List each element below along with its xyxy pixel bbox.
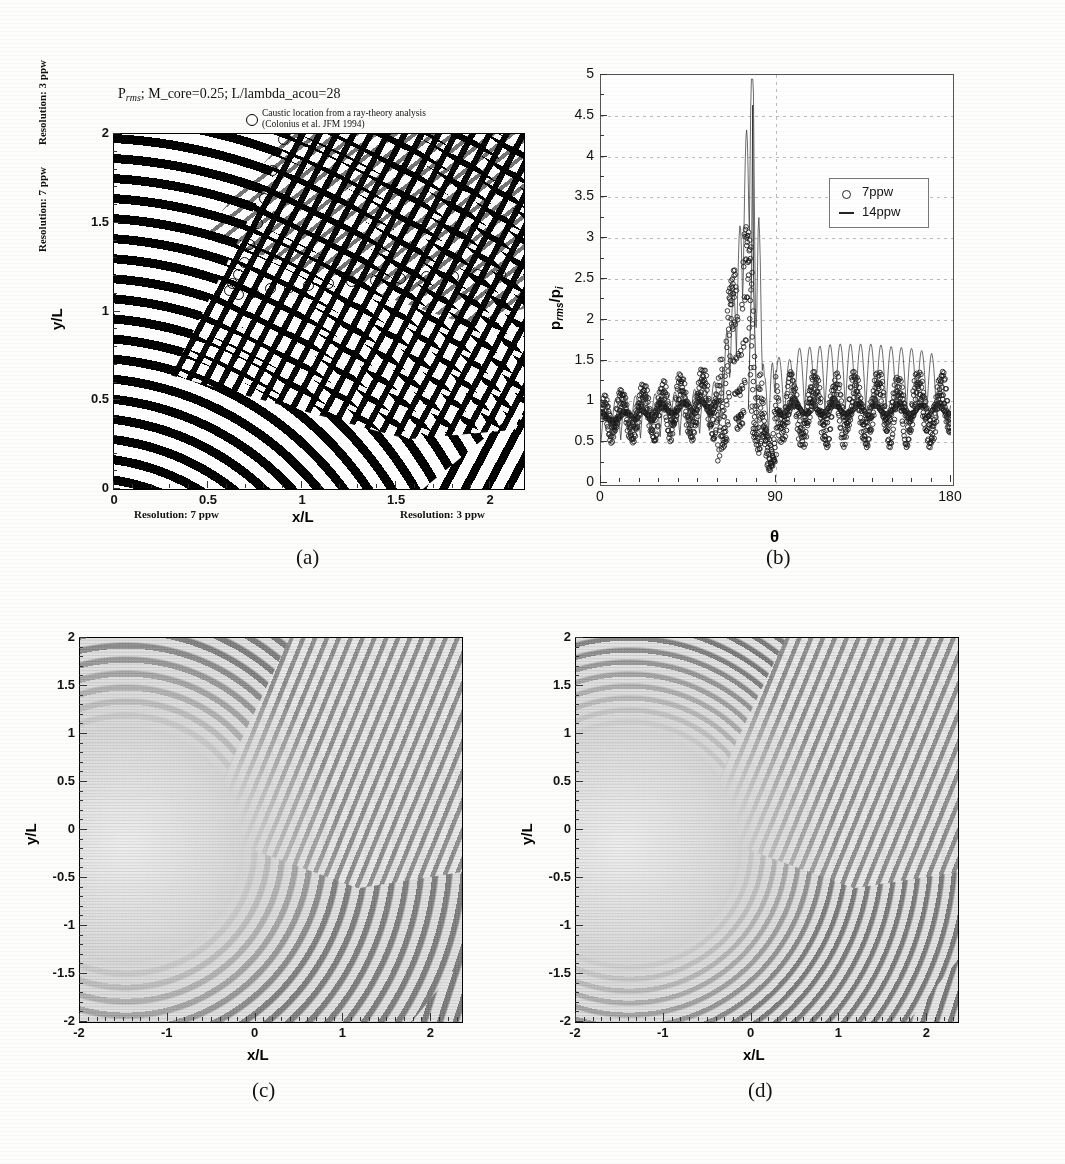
panel-a-x-minor-tick	[282, 484, 283, 488]
panel-d-y-minor-tick	[575, 983, 579, 984]
panel-a-note-left-bottom: Resolution: 7 ppw	[36, 167, 48, 252]
panel-d-y-minor-tick	[575, 637, 579, 638]
panel-d-x-minor-tick	[891, 1017, 892, 1021]
panel-b-y-minor-tick	[600, 380, 604, 381]
panel-a-x-minor-tick	[132, 484, 133, 488]
panel-a-field-image	[114, 134, 524, 489]
panel-c-x-minor-tick	[299, 1017, 300, 1021]
panel-b-x-tick-label: 0	[582, 488, 618, 504]
panel-d-y-minor-tick	[575, 867, 579, 868]
panel-b-y-tick-label: 0	[560, 473, 594, 489]
panel-c-y-minor-tick	[79, 714, 83, 715]
panel-d-y-minor-tick	[575, 887, 579, 888]
panel-b-x-minor-tick	[853, 478, 854, 482]
panel-d-x-minor-tick	[900, 1017, 901, 1021]
panel-b-x-minor-tick	[911, 478, 912, 482]
panel-a-y-axis-title: y/L	[48, 308, 65, 330]
panel-b-y-minor-tick	[600, 360, 604, 361]
panel-d-x-minor-tick	[812, 1017, 813, 1021]
panel-c-y-minor-tick	[79, 925, 83, 926]
panel-d-x-minor-tick	[856, 1017, 857, 1021]
panel-c-y-minor-tick	[79, 752, 83, 753]
panel-a-y-minor-tick	[113, 293, 117, 294]
panel-b-y-minor-tick	[600, 74, 604, 75]
panel-a-x-minor-tick	[301, 484, 302, 488]
panel-d-x-minor-tick	[847, 1017, 848, 1021]
panel-c-x-minor-tick	[395, 1017, 396, 1021]
panel-c-y-minor-tick	[79, 848, 83, 849]
panel-c-x-tick-label: 1	[328, 1025, 356, 1040]
panel-a-x-minor-tick	[452, 484, 453, 488]
panel-d-x-minor-tick	[838, 1017, 839, 1021]
panel-c-y-tick-label: -0.5	[45, 869, 75, 884]
panel-b-x-minor-tick	[639, 478, 640, 482]
panel-a-title-main: P	[118, 86, 126, 101]
panel-a-y-tick-label: 2	[83, 125, 109, 140]
panel-b-x-minor-tick	[717, 478, 718, 482]
panel-b-x-tick-label: 90	[757, 488, 793, 504]
panel-a-y-minor-tick	[113, 417, 117, 418]
panel-b-x-tick-label: 180	[932, 488, 968, 504]
panel-a-y-minor-tick	[113, 169, 117, 170]
panel-c-y-minor-tick	[79, 675, 83, 676]
panel-b-x-minor-tick	[931, 478, 932, 482]
panel-b-data-canvas	[601, 75, 951, 483]
panel-d-x-tick-label: -1	[649, 1025, 677, 1040]
panel-c-y-minor-tick	[79, 800, 83, 801]
panel-c-y-minor-tick	[79, 935, 83, 936]
panel-d-x-minor-tick	[830, 1017, 831, 1021]
panel-d-x-minor-tick	[935, 1017, 936, 1021]
panel-a-x-minor-tick	[263, 484, 264, 488]
panel-c-y-minor-tick	[79, 762, 83, 763]
panel-a-x-minor-tick	[414, 484, 415, 488]
panel-c-y-minor-tick	[79, 656, 83, 657]
panel-b-x-minor-tick	[600, 478, 601, 482]
panel-d-y-minor-tick	[575, 733, 579, 734]
panel-d-x-minor-tick	[751, 1017, 752, 1021]
panel-c-y-minor-tick	[79, 781, 83, 782]
panel-b-y-minor-tick	[600, 94, 604, 95]
panel-c-y-minor-tick	[79, 1021, 83, 1022]
panel-a-x-minor-tick	[470, 484, 471, 488]
panel-b-y-minor-tick	[600, 482, 604, 483]
panel-c-x-minor-tick	[413, 1017, 414, 1021]
panel-d-y-tick-label: -0.5	[541, 869, 571, 884]
figure-page: Prms; M_core=0.25; L/lambda_acou=28 Caus…	[0, 0, 1065, 1164]
panel-d-x-minor-tick	[654, 1017, 655, 1021]
panel-b-y-tick-label: 3.5	[560, 187, 594, 203]
panel-c-x-minor-tick	[316, 1017, 317, 1021]
caustic-point	[370, 275, 381, 286]
panel-c-x-minor-tick	[255, 1017, 256, 1021]
panel-b-y-tick-label: 3	[560, 228, 594, 244]
panel-d-y-minor-tick	[575, 963, 579, 964]
panel-d-y-minor-tick	[575, 675, 579, 676]
panel-b-y-tick-label: 1.5	[560, 351, 594, 367]
panel-d-x-axis-title: x/L	[743, 1046, 765, 1063]
panel-c-x-minor-tick	[307, 1017, 308, 1021]
caustic-legend-note-line2: (Colonius et al. JFM 1994)	[262, 119, 426, 130]
panel-d-x-minor-tick	[777, 1017, 778, 1021]
panel-c-x-minor-tick	[246, 1017, 247, 1021]
panel-a-x-minor-tick	[395, 484, 396, 488]
legend-label-7ppw: 7ppw	[862, 184, 893, 199]
panel-c-x-tick-label: -1	[153, 1025, 181, 1040]
panel-b-y-axis-div: /p	[546, 289, 563, 302]
panel-d-x-minor-tick	[742, 1017, 743, 1021]
panel-d-x-minor-tick	[759, 1017, 760, 1021]
panel-d-y-minor-tick	[575, 973, 579, 974]
panel-d-x-minor-tick	[636, 1017, 637, 1021]
panel-d-y-minor-tick	[575, 1002, 579, 1003]
panel-c-y-minor-tick	[79, 915, 83, 916]
panel-b-x-axis-title: θ	[770, 527, 779, 547]
panel-c-x-tick-label: 2	[416, 1025, 444, 1040]
panel-d-x-minor-tick	[645, 1017, 646, 1021]
panel-d-y-minor-tick	[575, 915, 579, 916]
panel-c-y-minor-tick	[79, 819, 83, 820]
caustic-legend-note-line1: Caustic location from a ray-theory analy…	[262, 108, 426, 119]
caustic-legend-note: Caustic location from a ray-theory analy…	[262, 108, 426, 130]
panel-c-x-minor-tick	[281, 1017, 282, 1021]
panel-b-y-axis-sub2: i	[554, 286, 565, 289]
panel-b-x-minor-tick	[872, 478, 873, 482]
panel-c-x-minor-tick	[132, 1017, 133, 1021]
panel-c-caption: (c)	[252, 1078, 275, 1103]
